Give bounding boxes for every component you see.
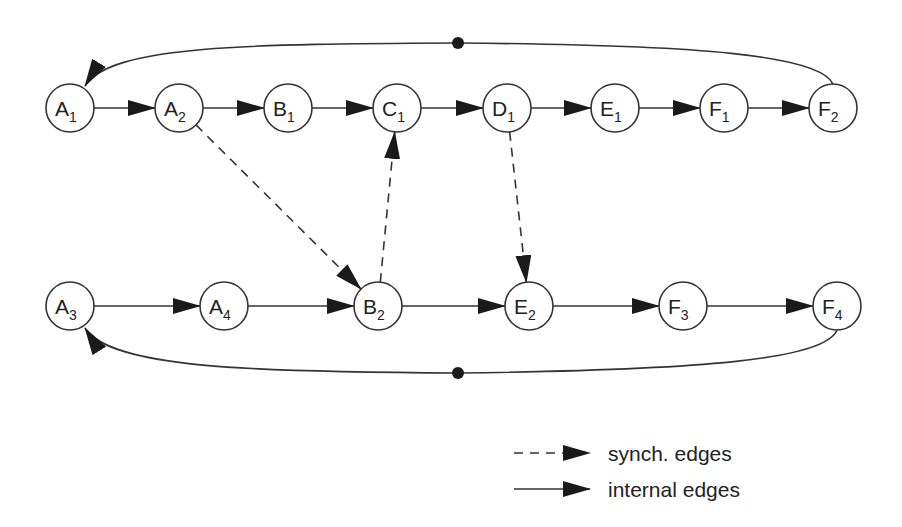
- node-A3[interactable]: A3: [46, 282, 94, 330]
- legend: synch. edges internal edges: [514, 442, 740, 501]
- node-F2[interactable]: F2: [809, 84, 857, 132]
- node-letter: F: [818, 97, 831, 120]
- node-index: 2: [831, 109, 839, 125]
- legend-item-synch: synch. edges: [514, 442, 732, 465]
- loop-edge-F4-A3: [85, 328, 837, 373]
- node-index: 1: [614, 109, 622, 125]
- node-A4[interactable]: A4: [200, 282, 248, 330]
- node-letter: B: [363, 295, 377, 318]
- legend-item-internal: internal edges: [514, 478, 740, 501]
- synch-edge-A2-B2: [196, 125, 361, 289]
- node-E2[interactable]: E2: [505, 282, 553, 330]
- node-index: 1: [287, 109, 295, 125]
- node-letter: B: [273, 97, 287, 120]
- synch-edge-B2-C1: [380, 132, 394, 282]
- synch-edge-D1-E2: [510, 132, 527, 282]
- node-index: 2: [178, 109, 186, 125]
- node-letter: A: [209, 295, 223, 318]
- node-letter: A: [55, 97, 69, 120]
- legend-label-internal: internal edges: [608, 478, 740, 501]
- node-letter: A: [55, 295, 69, 318]
- node-F4[interactable]: F4: [813, 282, 861, 330]
- node-B2[interactable]: B2: [354, 282, 402, 330]
- node-letter: F: [668, 295, 681, 318]
- node-letter: D: [492, 97, 507, 120]
- node-index: 4: [223, 307, 231, 323]
- node-D1[interactable]: D1: [483, 84, 531, 132]
- node-F1[interactable]: F1: [700, 84, 748, 132]
- node-index: 1: [69, 109, 77, 125]
- node-index: 1: [397, 109, 405, 125]
- node-letter: E: [600, 97, 614, 120]
- node-letter: F: [709, 97, 722, 120]
- node-letter: A: [164, 97, 178, 120]
- node-E1[interactable]: E1: [591, 84, 639, 132]
- node-index: 4: [835, 307, 843, 323]
- loop-edge-F2-A1: [85, 43, 833, 86]
- node-index: 2: [377, 307, 385, 323]
- token-dot-icon: [452, 367, 464, 379]
- node-B1[interactable]: B1: [264, 84, 312, 132]
- node-index: 1: [722, 109, 730, 125]
- nodes-layer: A1A2B1C1D1E1F1F2A3A4B2E2F3F4: [46, 84, 861, 330]
- legend-label-synch: synch. edges: [608, 442, 732, 465]
- node-index: 3: [69, 307, 77, 323]
- node-letter: C: [382, 97, 397, 120]
- node-C1[interactable]: C1: [373, 84, 421, 132]
- precedence-graph: A1A2B1C1D1E1F1F2A3A4B2E2F3F4 synch. edge…: [0, 0, 902, 527]
- node-letter: F: [822, 295, 835, 318]
- node-A1[interactable]: A1: [46, 84, 94, 132]
- node-F3[interactable]: F3: [659, 282, 707, 330]
- node-index: 3: [681, 307, 689, 323]
- node-A2[interactable]: A2: [155, 84, 203, 132]
- node-letter: E: [514, 295, 528, 318]
- node-index: 1: [507, 109, 515, 125]
- token-dot-icon: [452, 37, 464, 49]
- node-index: 2: [528, 307, 536, 323]
